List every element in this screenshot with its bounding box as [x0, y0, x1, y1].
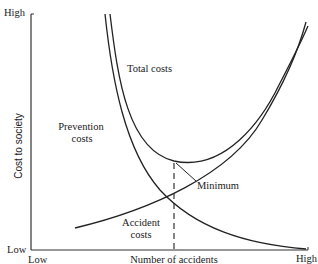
- accident-costs-label-line2: costs: [131, 229, 152, 240]
- total-costs-label: Total costs: [127, 63, 172, 74]
- prevention-costs-label-line2: costs: [72, 133, 93, 144]
- accident-costs-label-line1: Accident: [122, 217, 160, 228]
- prevention-costs-label-line1: Prevention: [58, 121, 104, 132]
- y-tick-high: High: [4, 7, 26, 18]
- axes: [31, 14, 308, 250]
- y-tick-low: Low: [7, 244, 27, 255]
- cost-curve-chart: High Low Low High Number of accidents Co…: [0, 0, 318, 264]
- x-tick-high: High: [296, 253, 318, 264]
- y-axis-title: Cost to society: [13, 113, 24, 179]
- prevention-costs-curve: [105, 14, 306, 249]
- x-axis-title: Number of accidents: [130, 254, 217, 264]
- minimum-label: Minimum: [197, 180, 239, 191]
- total-costs-curve: [110, 14, 308, 162]
- x-tick-low: Low: [28, 254, 48, 264]
- minimum-pointer-line: [176, 163, 196, 181]
